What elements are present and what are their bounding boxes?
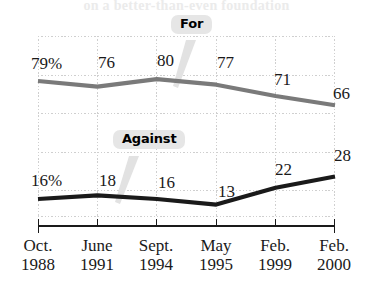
callout-badge-for: For [171,15,212,34]
x-tick-month-1: June [66,236,128,255]
value-label-for-2: 80 [157,52,174,70]
value-label-against-3: 13 [218,183,235,201]
value-label-against-1: 18 [99,172,116,190]
x-tick-year-2: 1994 [125,255,187,274]
x-tick-label-4: Feb. 1999 [244,236,306,274]
x-tick-label-5: Feb. 2000 [303,236,365,274]
x-axis [38,219,335,233]
x-tick-label-3: May 1995 [185,236,247,274]
x-tick-month-2: Sept. [125,236,187,255]
x-tick-year-3: 1995 [185,255,247,274]
value-label-against-4: 22 [275,161,292,179]
callout-badge-against: Against [113,130,185,149]
value-label-against-0: 16% [31,172,62,190]
value-label-against-5: 28 [334,147,351,165]
x-tick-label-2: Sept. 1994 [125,236,187,274]
x-tick-year-1: 1991 [66,255,128,274]
value-label-for-5: 66 [333,85,350,103]
x-tick-label-0: Oct. 1988 [7,236,69,274]
x-tick-month-4: Feb. [244,236,306,255]
chart-container: on a better-than-even foundation [0,0,373,288]
callout-leaders [115,40,196,204]
x-tick-year-0: 1988 [7,255,69,274]
x-tick-label-1: June 1991 [66,236,128,274]
value-label-against-2: 16 [158,174,175,192]
value-label-for-3: 77 [217,54,234,72]
value-label-for-1: 76 [98,54,115,72]
value-label-for-0: 79% [31,55,62,73]
x-tick-year-5: 2000 [303,255,365,274]
x-tick-year-4: 1999 [244,255,306,274]
x-tick-month-0: Oct. [7,236,69,255]
x-tick-month-5: Feb. [303,236,365,255]
value-label-for-4: 71 [274,71,291,89]
x-tick-month-3: May [185,236,247,255]
